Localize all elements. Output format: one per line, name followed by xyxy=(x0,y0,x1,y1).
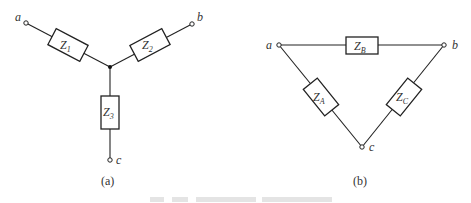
terminal-a xyxy=(277,43,281,47)
terminal-c xyxy=(108,158,112,162)
label-b: b xyxy=(452,38,458,52)
impedance-z2: Z2 xyxy=(129,28,170,62)
label-c: c xyxy=(116,153,122,167)
wye-network: Z1 Z2 Z3 a b c (a) xyxy=(15,10,203,188)
impedance-z1: Z1 xyxy=(47,29,88,64)
center-node xyxy=(108,65,112,69)
impedance-z3: Z3 xyxy=(101,96,119,129)
terminal-c xyxy=(360,145,364,149)
impedance-zb: ZB xyxy=(346,37,378,55)
caption-b: (b) xyxy=(353,174,367,188)
terminal-b xyxy=(442,43,446,47)
delta-network: ZB ZA ZC a b c (b) xyxy=(266,37,458,188)
impedance-zc: ZC xyxy=(385,77,422,116)
terminal-b xyxy=(190,22,194,26)
blurred-figure-caption xyxy=(150,197,332,202)
label-c: c xyxy=(369,140,375,154)
label-a: a xyxy=(266,38,272,52)
caption-a: (a) xyxy=(101,174,114,188)
circuit-diagram: Z1 Z2 Z3 a b c (a) ZB xyxy=(0,0,471,203)
terminal-a xyxy=(24,21,28,25)
label-a: a xyxy=(15,10,21,24)
label-b: b xyxy=(197,10,203,24)
